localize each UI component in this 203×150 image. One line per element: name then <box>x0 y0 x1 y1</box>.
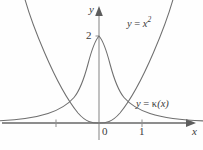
curve-kappa <box>0 36 203 121</box>
kappa-argument: (x) <box>157 98 169 109</box>
x-tick-label-1: 1 <box>139 126 145 137</box>
curve-label-parabola: y = x2 <box>127 16 151 29</box>
y-axis-arrowhead <box>95 6 103 16</box>
y-tick-label-2: 2 <box>86 30 92 41</box>
origin-label: 0 <box>102 126 108 137</box>
curve-label-kappa: y = κ(x) <box>136 99 169 110</box>
x-axis-label: x <box>192 126 197 137</box>
parabola-equals: = <box>132 18 143 29</box>
parabola-exponent: 2 <box>148 15 152 24</box>
y-axis <box>95 6 103 140</box>
curvature-figure: y x 2 0 1 y = x2 y = κ(x) <box>0 0 203 150</box>
y-axis-label: y <box>89 4 94 15</box>
kappa-equals: = <box>141 98 152 109</box>
